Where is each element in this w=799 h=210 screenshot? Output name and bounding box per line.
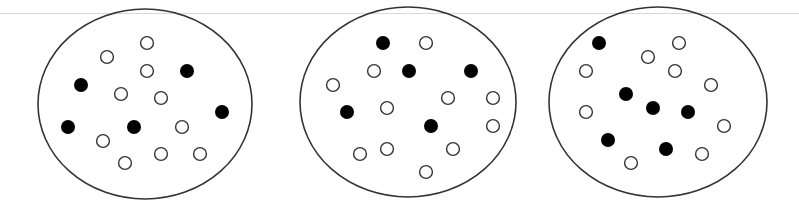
filled-particle-icon [424, 119, 438, 133]
open-particle-icon [141, 65, 154, 78]
container-3 [549, 7, 767, 197]
filled-particle-icon [659, 142, 673, 156]
open-particle-icon [669, 65, 682, 78]
filled-particle-icon [402, 64, 416, 78]
open-particle-icon [705, 79, 718, 92]
open-particle-icon [97, 135, 110, 148]
open-particle-icon [673, 37, 686, 50]
particle-diagram [0, 0, 799, 210]
open-particle-icon [487, 120, 500, 133]
open-particle-icon [155, 92, 168, 105]
open-particle-icon [194, 148, 207, 161]
filled-particle-icon [646, 101, 660, 115]
open-particle-icon [487, 92, 500, 105]
container-ellipse [300, 7, 516, 197]
open-particle-icon [176, 121, 189, 134]
open-particle-icon [420, 166, 433, 179]
filled-particle-icon [681, 105, 695, 119]
open-particle-icon [447, 143, 460, 156]
open-particle-icon [115, 88, 128, 101]
open-particle-icon [442, 92, 455, 105]
filled-particle-icon [464, 64, 478, 78]
filled-particle-icon [601, 133, 615, 147]
open-particle-icon [119, 157, 132, 170]
open-particle-icon [696, 148, 709, 161]
open-particle-icon [354, 148, 367, 161]
open-particle-icon [580, 106, 593, 119]
open-particle-icon [368, 65, 381, 78]
filled-particle-icon [376, 36, 390, 50]
open-particle-icon [580, 65, 593, 78]
open-particle-icon [642, 51, 655, 64]
open-particle-icon [327, 79, 340, 92]
open-particle-icon [381, 143, 394, 156]
open-particle-icon [625, 157, 638, 170]
filled-particle-icon [592, 36, 606, 50]
open-particle-icon [155, 148, 168, 161]
open-particle-icon [101, 51, 114, 64]
open-particle-icon [381, 102, 394, 115]
filled-particle-icon [61, 120, 75, 134]
open-particle-icon [718, 120, 731, 133]
filled-particle-icon [215, 105, 229, 119]
filled-particle-icon [74, 78, 88, 92]
filled-particle-icon [340, 105, 354, 119]
container-1 [38, 9, 252, 199]
open-particle-icon [141, 37, 154, 50]
filled-particle-icon [180, 64, 194, 78]
container-ellipse [549, 7, 767, 197]
container-2 [300, 7, 516, 197]
filled-particle-icon [127, 120, 141, 134]
filled-particle-icon [619, 87, 633, 101]
open-particle-icon [420, 37, 433, 50]
